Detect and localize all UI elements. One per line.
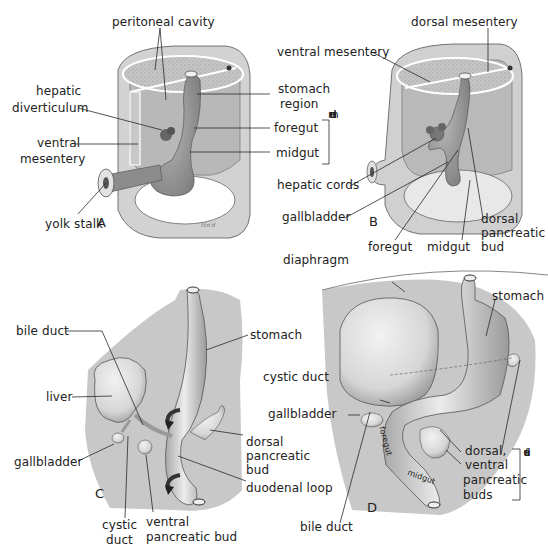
label-bile-duct-d: bile duct (300, 520, 353, 534)
label-ventral-mesentery-b: ventral mesentery (277, 45, 389, 59)
panel-letter-c: C (95, 486, 104, 501)
label-liver: liver (46, 390, 73, 404)
label-mesentery: mesentery (20, 152, 85, 166)
label-diaphragm: diaphragm (283, 253, 349, 267)
duodenum-letter: m (328, 110, 338, 120)
label-cystic-duct-d: cystic duct (263, 370, 329, 384)
panel-b-drawing (367, 44, 522, 234)
artist-signature: Hn'd (201, 221, 216, 228)
fused-letter: d (522, 448, 532, 458)
label-dorsal-mesentery: dorsal mesentery (411, 15, 518, 29)
label-ventral-c: ventral (146, 515, 189, 529)
label-pancreatic-c: pancreatic (246, 449, 310, 463)
label-dorsal-b: dorsal (481, 212, 518, 226)
label-hepatic: hepatic (36, 84, 81, 98)
label-ventral: ventral (37, 136, 80, 150)
label-bud-c: bud (246, 463, 269, 477)
label-dorsal-d: dorsal, (465, 444, 506, 458)
label-buds-d: buds (463, 488, 493, 502)
panel-c-drawing (85, 287, 243, 511)
label-dorsal-c: dorsal (246, 435, 283, 449)
label-bile-duct-c: bile duct (16, 324, 69, 338)
label-stomach-d: stomach (492, 289, 544, 303)
label-cystic: cystic (102, 518, 137, 532)
label-duct: duct (106, 533, 133, 547)
label-midgut-a: midgut (276, 146, 319, 160)
panel-letter-d: D (367, 500, 377, 515)
label-yolk-stalk: yolk stalk (45, 217, 103, 231)
label-peritoneal-cavity: peritoneal cavity (112, 15, 215, 29)
label-hepatic-cords: hepatic cords (277, 178, 359, 192)
label-duodenal-loop: duodenal loop (246, 481, 333, 495)
label-bud-b: bud (481, 240, 504, 254)
label-gallbladder-c: gallbladder (14, 455, 83, 469)
label-foregut-b: foregut (368, 240, 412, 254)
label-diverticulum: diverticulum (12, 101, 88, 115)
label-ventral-d: ventral (465, 458, 508, 472)
embryology-figure: peritoneal cavity hepatic diverticulum v… (0, 0, 548, 552)
label-pancreatic-b: pancreatic (481, 226, 545, 240)
label-midgut-b: midgut (427, 240, 470, 254)
label-region: region (280, 97, 319, 111)
label-gallbladder-d: gallbladder (268, 407, 337, 421)
label-pancreatic-d: pancreatic (463, 473, 527, 487)
label-foregut-a: foregut (274, 121, 318, 135)
label-stomach-c: stomach (250, 328, 302, 342)
panel-letter-a: A (97, 215, 106, 230)
panel-a-drawing (98, 46, 250, 238)
label-gallbladder-b: gallbladder (282, 210, 351, 224)
panel-letter-b: B (369, 214, 378, 229)
label-pancreatic-bud-c: pancreatic bud (146, 530, 237, 544)
label-stomach: stomach (278, 82, 330, 96)
